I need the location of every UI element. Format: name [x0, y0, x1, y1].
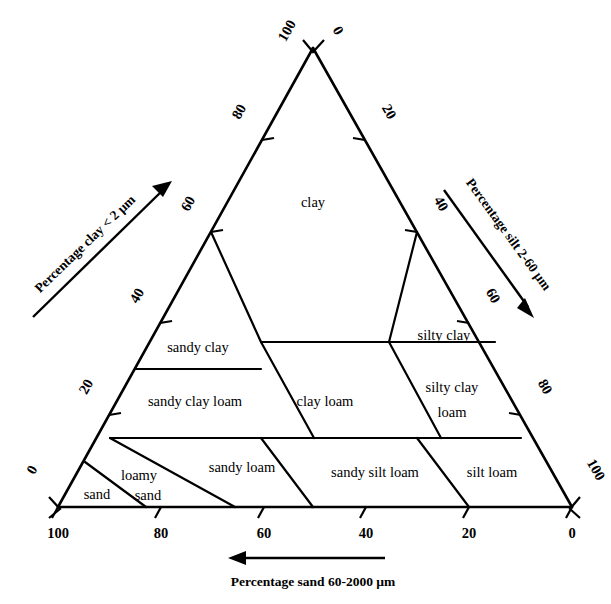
region-boundaries	[85, 232, 521, 507]
region-label-silty-clay-loam-line1: silty clay	[426, 379, 480, 395]
boundary-sandy-clay-loam-right	[261, 342, 314, 438]
left-axis-title-group: Percentage clay < 2 µm	[32, 181, 172, 317]
boundary-sandy-silt-loam-right	[417, 438, 469, 507]
left-tick-label-20: 20	[75, 376, 96, 397]
right-tick-label-0: 0	[330, 23, 347, 37]
region-label-silty-clay-loam-line2: loam	[438, 404, 468, 420]
right-tick-label-20: 20	[379, 101, 400, 122]
left-axis-arrow-head	[152, 181, 172, 197]
region-label-silt-loam: silt loam	[467, 464, 518, 480]
region-label-loamy-sand-line2: sand	[135, 487, 162, 503]
left-tick-label-60: 60	[177, 193, 198, 214]
bottom-tick-label-40: 40	[359, 525, 374, 541]
left-axis-ticks	[109, 138, 274, 415]
left-tick-label-80: 80	[228, 101, 249, 122]
right-tick-label-100: 100	[584, 456, 609, 483]
bottom-axis-tick-labels: 100 80 60 40 20 0	[47, 525, 576, 541]
bottom-tick-label-20: 20	[462, 525, 477, 541]
bottom-axis-title-group: Percentage sand 60-2000 µm	[228, 551, 396, 589]
region-label-clay-loam: clay loam	[297, 393, 354, 409]
region-label-sandy-clay-loam: sandy clay loam	[148, 393, 243, 409]
right-tick-label-80: 80	[535, 376, 556, 397]
bottom-tick-label-100: 100	[47, 525, 69, 541]
ternary-diagram-svg: 100 80 60 40 20 0 0 20 40 60 80 100	[0, 0, 611, 604]
region-label-loamy-sand-line1: loamy	[121, 467, 158, 483]
left-tick-label-0: 0	[23, 462, 40, 476]
right-axis-tick-labels: 0 20 40 60 80 100	[330, 23, 609, 483]
right-tick-label-60: 60	[483, 285, 504, 306]
right-axis-arrow-head	[517, 298, 534, 318]
left-tick-label-100: 100	[274, 17, 299, 44]
bottom-tick-label-80: 80	[154, 525, 169, 541]
region-label-sandy-silt-loam: sandy silt loam	[331, 464, 420, 480]
bottom-axis-ticks	[52, 507, 572, 518]
region-label-silty-clay: silty clay	[418, 327, 472, 343]
region-label-sandy-loam: sandy loam	[209, 459, 276, 475]
region-label-clay: clay	[301, 194, 326, 210]
region-label-sandy-clay: sandy clay	[167, 339, 229, 355]
bottom-tick-label-0: 0	[568, 525, 575, 541]
corner-ticks	[49, 40, 580, 518]
boundary-clay-left	[211, 232, 261, 342]
left-tick-label-40: 40	[126, 285, 147, 306]
boundary-clay-right	[389, 232, 417, 342]
region-labels: clay sandy clay silty clay sandy clay lo…	[84, 194, 518, 503]
bottom-axis-arrow-head	[228, 551, 246, 565]
region-label-sand: sand	[84, 486, 111, 502]
bottom-axis-title: Percentage sand 60-2000 µm	[231, 574, 396, 589]
left-axis-title: Percentage clay < 2 µm	[32, 191, 139, 295]
bottom-tick-label-60: 60	[257, 525, 272, 541]
soil-texture-triangle-chart: 100 80 60 40 20 0 0 20 40 60 80 100	[0, 0, 611, 604]
